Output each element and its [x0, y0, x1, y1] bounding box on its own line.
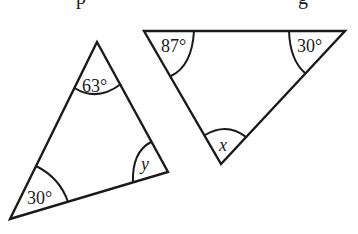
right-top-right-angle-label: 30° — [297, 36, 322, 56]
right-triangle: 87° 30° x — [144, 31, 345, 164]
clipped-header-text: p g — [0, 0, 358, 10]
left-triangle: 63° 30° y — [10, 42, 168, 219]
right-bottom-angle-label: x — [218, 135, 227, 155]
triangles-svg: 63° 30° y 87° 30° x — [0, 0, 358, 234]
right-top-left-angle-label: 87° — [161, 36, 186, 56]
left-top-angle-label: 63° — [82, 76, 107, 96]
clipped-glyph-p: p — [76, 0, 86, 9]
diagram-canvas: p g 63° 30° y 87° 30° x — [0, 0, 358, 234]
left-right-angle-label: y — [139, 154, 149, 174]
left-bottom-left-angle-label: 30° — [27, 188, 52, 208]
clipped-glyph-g: g — [298, 0, 308, 9]
